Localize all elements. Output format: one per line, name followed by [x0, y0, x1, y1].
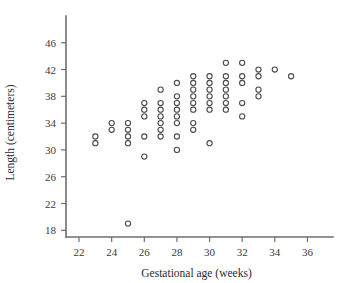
data-point [174, 80, 179, 85]
data-point [158, 121, 163, 126]
data-point [158, 107, 163, 112]
data-point [191, 100, 196, 105]
data-point [174, 107, 179, 112]
plot-area: 18222630343842462224262830323436Gestatio… [0, 0, 339, 283]
data-point [240, 80, 245, 85]
data-point [158, 114, 163, 119]
x-tick-label: 34 [269, 246, 281, 258]
data-point [109, 121, 114, 126]
data-point [240, 60, 245, 65]
data-point [240, 114, 245, 119]
y-tick-label: 18 [45, 224, 57, 236]
data-point [223, 94, 228, 99]
x-axis-title: Gestational age (weeks) [141, 267, 252, 280]
data-point [174, 100, 179, 105]
data-point [240, 74, 245, 79]
data-point [207, 80, 212, 85]
y-tick-label: 34 [45, 117, 57, 129]
data-point [207, 94, 212, 99]
data-point [223, 74, 228, 79]
x-tick-label: 32 [237, 246, 248, 258]
data-point [158, 87, 163, 92]
x-tick-label: 28 [171, 246, 183, 258]
y-tick-label: 46 [45, 37, 57, 49]
data-point [125, 134, 130, 139]
data-point [191, 74, 196, 79]
y-tick-label: 42 [45, 64, 56, 76]
data-point [125, 221, 130, 226]
x-tick-label: 22 [74, 246, 85, 258]
data-point [207, 141, 212, 146]
data-point [174, 121, 179, 126]
data-point [125, 121, 130, 126]
data-point [125, 141, 130, 146]
data-point [158, 134, 163, 139]
y-tick-label: 38 [45, 90, 57, 102]
data-point [207, 107, 212, 112]
data-point [142, 134, 147, 139]
data-point [174, 94, 179, 99]
data-point [256, 74, 261, 79]
data-point [109, 127, 114, 132]
data-point [158, 100, 163, 105]
data-point [93, 141, 98, 146]
data-point [223, 80, 228, 85]
data-point [142, 100, 147, 105]
data-point [93, 134, 98, 139]
data-point [223, 60, 228, 65]
data-point [289, 74, 294, 79]
y-tick-label: 22 [45, 198, 56, 210]
data-point [174, 147, 179, 152]
data-point [191, 121, 196, 126]
x-tick-label: 36 [302, 246, 314, 258]
y-tick-label: 26 [45, 171, 57, 183]
data-point [256, 94, 261, 99]
x-tick-label: 30 [204, 246, 216, 258]
data-point [125, 127, 130, 132]
data-point [223, 100, 228, 105]
data-point [223, 107, 228, 112]
data-point [142, 114, 147, 119]
data-point [207, 87, 212, 92]
data-point [240, 100, 245, 105]
data-point [174, 134, 179, 139]
x-tick-label: 26 [139, 246, 151, 258]
data-point [207, 100, 212, 105]
data-point [158, 127, 163, 132]
x-tick-label: 24 [106, 246, 118, 258]
data-point [142, 154, 147, 159]
data-point [191, 80, 196, 85]
y-axis-title: Length (centimeters) [4, 84, 17, 180]
data-point [174, 114, 179, 119]
data-point [191, 94, 196, 99]
y-tick-label: 30 [45, 144, 57, 156]
data-point [207, 74, 212, 79]
data-point [256, 87, 261, 92]
data-point [191, 127, 196, 132]
data-point [256, 67, 261, 72]
data-point [223, 87, 228, 92]
data-point [191, 87, 196, 92]
data-point [191, 107, 196, 112]
data-point [142, 107, 147, 112]
data-point [272, 67, 277, 72]
scatter-plot-figure: 18222630343842462224262830323436Gestatio… [0, 0, 339, 283]
